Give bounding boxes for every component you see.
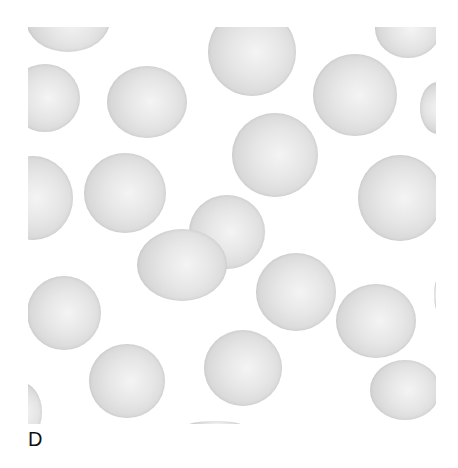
blood-cell — [370, 360, 436, 420]
blood-cell — [137, 229, 227, 301]
panel-label: D — [28, 428, 42, 451]
blood-cell — [375, 27, 436, 58]
blood-cell — [208, 27, 296, 96]
blood-cell — [434, 279, 436, 311]
blood-cell — [28, 276, 101, 350]
blood-cell — [89, 344, 165, 418]
blood-cell — [84, 153, 166, 233]
micrograph-image — [28, 27, 436, 424]
blood-cell — [28, 64, 80, 132]
blood-cell — [358, 155, 436, 241]
blood-cell — [28, 27, 110, 52]
blood-cell — [336, 284, 416, 358]
blood-cell — [107, 66, 187, 138]
blood-cell — [313, 54, 397, 136]
blood-cell — [204, 330, 282, 406]
blood-cell — [185, 421, 245, 424]
blood-cell — [420, 82, 436, 134]
blood-cell — [28, 382, 42, 424]
blood-cell — [232, 113, 318, 197]
blood-cell — [256, 253, 336, 331]
blood-cell — [28, 156, 73, 240]
